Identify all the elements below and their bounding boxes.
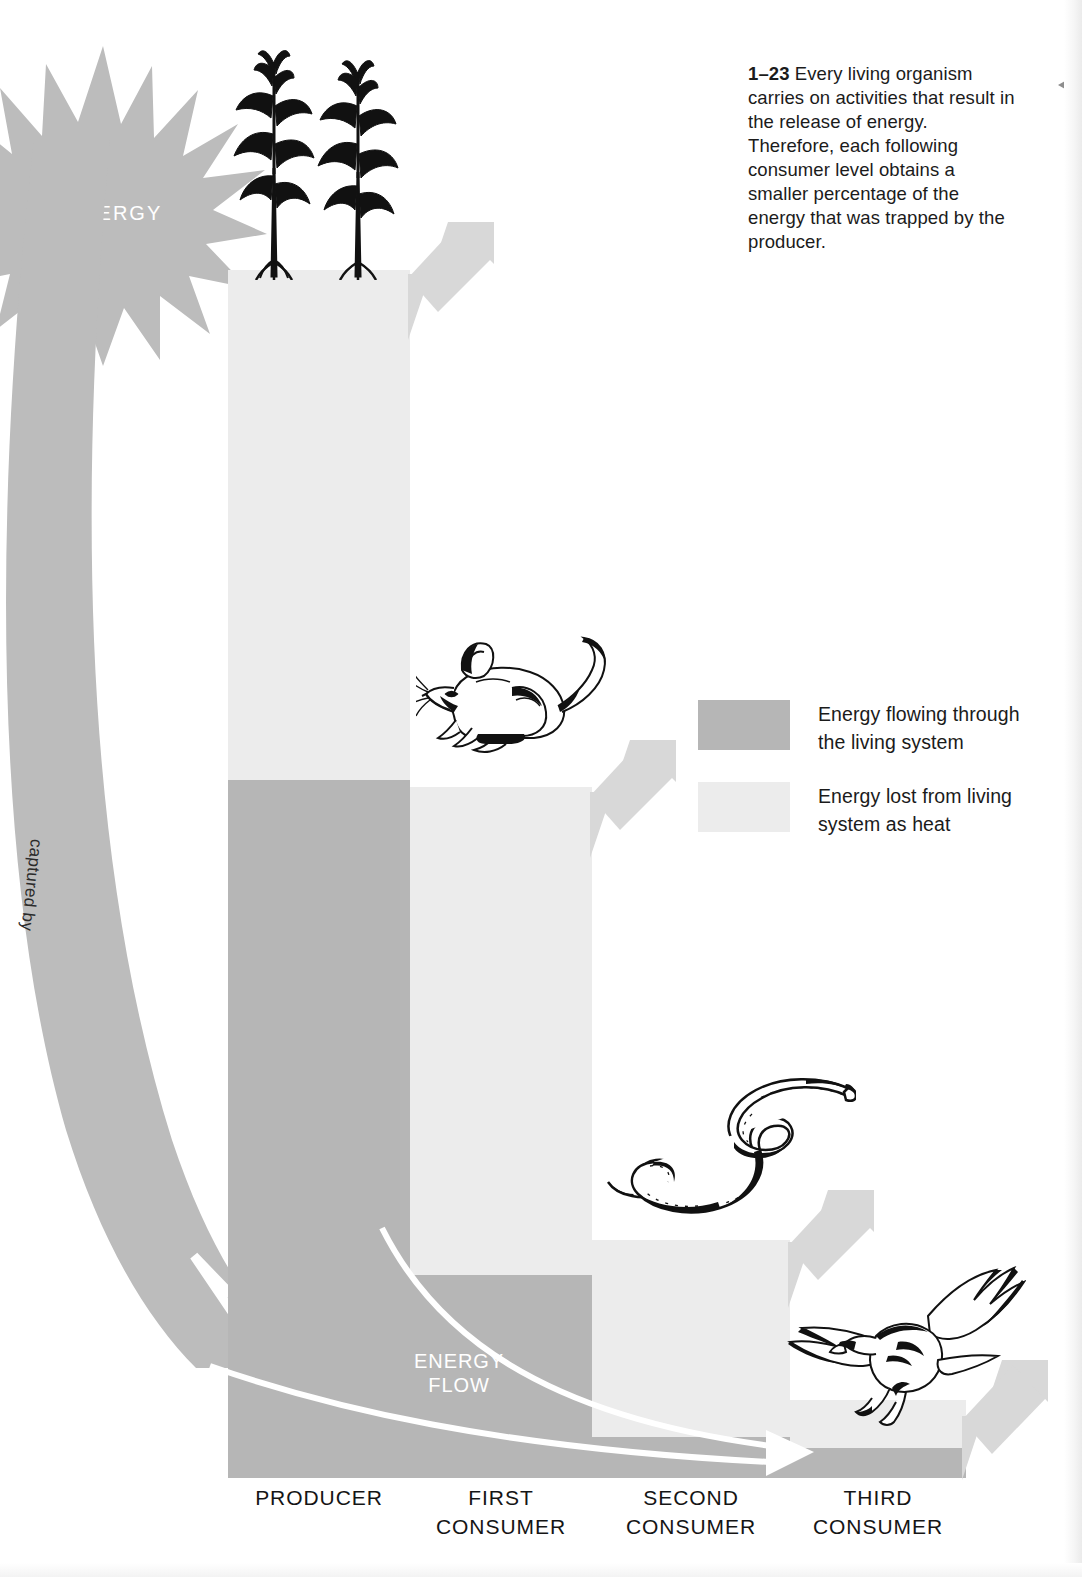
energy-flow-line2: FLOW (404, 1373, 514, 1397)
axis-label-producer: PRODUCER (228, 1484, 410, 1513)
figure-caption-text: Every living organism carries on activit… (748, 63, 1015, 252)
energy-flow-line1: ENERGY (404, 1349, 514, 1373)
axis-label-first-consumer-line2: CONSUMER (410, 1513, 592, 1542)
figure-caption: 1–23 Every living organism carries on ac… (748, 62, 1016, 254)
legend-item-energy-lost-heat: Energy lost from living system as heat (698, 782, 1038, 838)
arrow-first-to-second (590, 740, 676, 858)
legend-label-energy-flowing: Energy flowing through the living system (818, 700, 1038, 756)
bar-producer-heat (228, 270, 410, 780)
axis-label-first-consumer-line1: FIRST (410, 1484, 592, 1513)
figure-number: 1–23 (748, 63, 790, 84)
axis-label-second-consumer-line1: SECOND (592, 1484, 790, 1513)
axis-label-third-consumer-line1: THIRD (790, 1484, 966, 1513)
axis-label-second-consumer-line2: CONSUMER (592, 1513, 790, 1542)
legend-swatch-energy-flowing (698, 700, 790, 750)
axis-label-second-consumer: SECOND CONSUMER (592, 1484, 790, 1542)
axis-label-first-consumer: FIRST CONSUMER (410, 1484, 592, 1542)
energy-flow-arrows (210, 1180, 870, 1490)
legend-item-energy-flowing: Energy flowing through the living system (698, 700, 1038, 756)
energy-flow-label: ENERGY FLOW (404, 1349, 514, 1398)
legend-swatch-energy-lost-heat (698, 782, 790, 832)
axis-label-third-consumer-line2: CONSUMER (790, 1513, 966, 1542)
corn-plants-illustration (216, 48, 416, 280)
legend: Energy flowing through the living system… (698, 700, 1038, 865)
figure-canvas: ENERGY captured by (0, 0, 1082, 1577)
axis-label-producer-line1: PRODUCER (228, 1484, 410, 1513)
arrow-producer-to-first (408, 222, 494, 340)
axis-label-third-consumer: THIRD CONSUMER (790, 1484, 966, 1542)
page-edge-right (1064, 0, 1082, 1577)
trophic-level-axis: PRODUCER FIRST CONSUMER SECOND CONSUMER … (0, 1484, 1082, 1574)
mouse-illustration (416, 608, 632, 756)
page-edge-bottom (0, 1563, 1082, 1577)
legend-label-energy-lost-heat: Energy lost from living system as heat (818, 782, 1038, 838)
